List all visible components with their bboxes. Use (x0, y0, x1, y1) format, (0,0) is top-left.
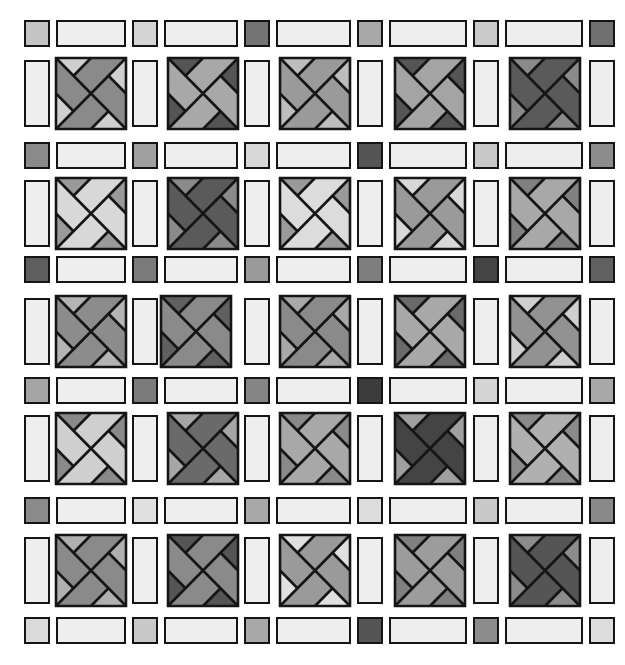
pinwheel-block (56, 178, 126, 249)
cornerstone-square (132, 142, 158, 169)
sashing-strip-horizontal (276, 256, 351, 283)
sashing-strip-horizontal (164, 617, 238, 644)
pinwheel-block (168, 413, 238, 484)
quilt-diagram (0, 0, 625, 665)
pinwheel-block (168, 178, 238, 249)
sashing-strip-horizontal (505, 20, 583, 47)
pinwheel-block (395, 58, 465, 129)
sashing-strip-horizontal (389, 20, 467, 47)
pinwheel-block (510, 413, 580, 484)
cornerstone-square (132, 497, 158, 524)
sashing-strip-horizontal (505, 497, 583, 524)
sashing-strip-horizontal (276, 377, 351, 404)
sashing-strip-vertical (357, 180, 383, 247)
cornerstone-square (357, 142, 383, 169)
sashing-strip-horizontal (389, 377, 467, 404)
cornerstone-square (244, 377, 270, 404)
pinwheel-block (168, 58, 238, 129)
sashing-strip-vertical (357, 537, 383, 604)
cornerstone-square (24, 20, 50, 47)
cornerstone-square (244, 617, 270, 644)
sashing-strip-horizontal (505, 256, 583, 283)
sashing-strip-vertical (132, 537, 158, 604)
sashing-strip-horizontal (389, 497, 467, 524)
cornerstone-square (24, 617, 50, 644)
pinwheel-block (395, 413, 465, 484)
cornerstone-square (244, 497, 270, 524)
pinwheel-block (280, 535, 350, 606)
pinwheel-block (280, 296, 350, 367)
cornerstone-square (589, 20, 615, 47)
sashing-strip-vertical (589, 415, 615, 482)
cornerstone-square (357, 617, 383, 644)
pinwheel-block (56, 296, 126, 367)
pinwheel-block (395, 178, 465, 249)
cornerstone-square (357, 20, 383, 47)
cornerstone-square (244, 20, 270, 47)
sashing-strip-vertical (24, 180, 50, 247)
pinwheel-block (56, 535, 126, 606)
sashing-strip-vertical (473, 180, 499, 247)
cornerstone-square (473, 142, 499, 169)
sashing-strip-horizontal (505, 142, 583, 169)
cornerstone-square (357, 256, 383, 283)
sashing-strip-horizontal (389, 142, 467, 169)
cornerstone-square (24, 377, 50, 404)
sashing-strip-horizontal (56, 256, 126, 283)
pinwheel-block (510, 178, 580, 249)
cornerstone-square (24, 497, 50, 524)
sashing-strip-horizontal (276, 142, 351, 169)
sashing-strip-vertical (589, 537, 615, 604)
sashing-strip-vertical (24, 415, 50, 482)
sashing-strip-horizontal (164, 20, 238, 47)
pinwheel-block (280, 178, 350, 249)
sashing-strip-horizontal (56, 377, 126, 404)
cornerstone-square (132, 377, 158, 404)
pinwheel-block (168, 535, 238, 606)
sashing-strip-vertical (357, 298, 383, 365)
pinwheel-block (510, 58, 580, 129)
sashing-strip-vertical (132, 298, 158, 365)
cornerstone-square (589, 377, 615, 404)
sashing-strip-vertical (589, 60, 615, 127)
cornerstone-square (589, 497, 615, 524)
sashing-strip-horizontal (505, 617, 583, 644)
sashing-strip-vertical (132, 60, 158, 127)
cornerstone-square (589, 142, 615, 169)
sashing-strip-vertical (244, 60, 270, 127)
sashing-strip-vertical (473, 415, 499, 482)
cornerstone-square (473, 377, 499, 404)
sashing-strip-vertical (473, 537, 499, 604)
cornerstone-square (357, 497, 383, 524)
sashing-strip-horizontal (164, 497, 238, 524)
sashing-strip-vertical (589, 298, 615, 365)
cornerstone-square (132, 20, 158, 47)
sashing-strip-vertical (357, 60, 383, 127)
pinwheel-block (280, 413, 350, 484)
pinwheel-block (395, 535, 465, 606)
sashing-strip-vertical (244, 298, 270, 365)
pinwheel-block (510, 296, 580, 367)
sashing-strip-vertical (357, 415, 383, 482)
sashing-strip-horizontal (276, 617, 351, 644)
cornerstone-square (132, 617, 158, 644)
cornerstone-square (473, 497, 499, 524)
pinwheel-block (161, 296, 231, 367)
cornerstone-square (589, 617, 615, 644)
sashing-strip-horizontal (164, 142, 238, 169)
cornerstone-square (473, 20, 499, 47)
sashing-strip-vertical (473, 60, 499, 127)
pinwheel-block (280, 58, 350, 129)
cornerstone-square (24, 142, 50, 169)
sashing-strip-horizontal (505, 377, 583, 404)
sashing-strip-vertical (589, 180, 615, 247)
sashing-strip-horizontal (56, 497, 126, 524)
sashing-strip-vertical (24, 537, 50, 604)
cornerstone-square (244, 142, 270, 169)
sashing-strip-vertical (244, 415, 270, 482)
pinwheel-block (56, 413, 126, 484)
cornerstone-square (589, 256, 615, 283)
pinwheel-block (395, 296, 465, 367)
sashing-strip-horizontal (276, 497, 351, 524)
cornerstone-square (24, 256, 50, 283)
